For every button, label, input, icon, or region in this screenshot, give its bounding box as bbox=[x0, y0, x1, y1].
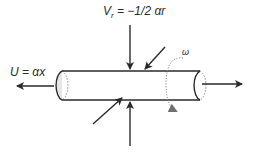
rotation-label: ω bbox=[182, 47, 189, 57]
radial-velocity-label: Vr = −1/2 αr bbox=[103, 4, 165, 20]
vortex-stretching-diagram: Vr = −1/2 αr U = αx ω bbox=[0, 0, 255, 157]
diagonal-inflow-arrow-lower bbox=[93, 98, 122, 124]
diagonal-inflow-arrow-upper bbox=[145, 47, 165, 69]
rotation-arrow bbox=[166, 58, 183, 111]
cylinder bbox=[56, 71, 206, 100]
axial-velocity-label: U = αx bbox=[10, 65, 45, 79]
